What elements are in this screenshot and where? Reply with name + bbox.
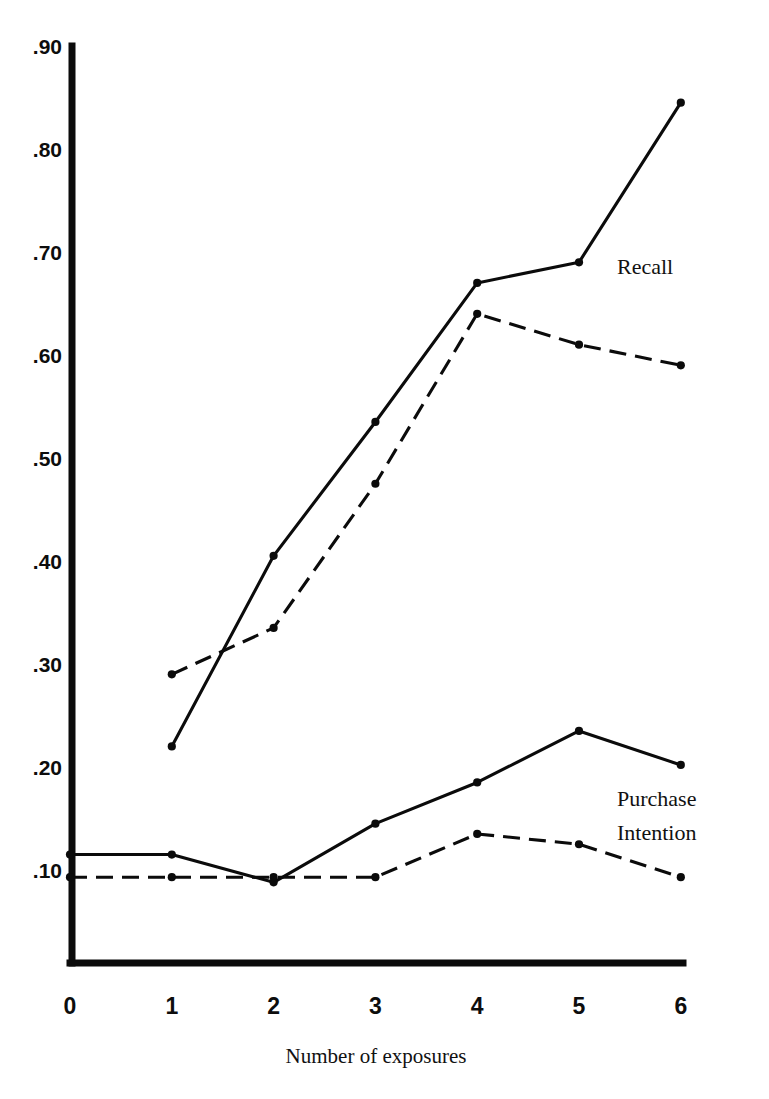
data-point-marker [575, 258, 583, 266]
data-point-marker [473, 830, 481, 838]
y-tick-label: .60 [33, 344, 62, 367]
y-tick-label: .90 [33, 35, 62, 58]
data-point-marker [270, 873, 278, 881]
series-label-purchase-intention-line2: Intention [617, 820, 696, 845]
x-tick-label: 4 [471, 993, 484, 1019]
y-tick-label: .20 [33, 756, 62, 779]
data-point-marker [575, 840, 583, 848]
y-axis-tick-labels: .90.80.70.60.50.40.30.20.10 [33, 35, 62, 882]
data-point-marker [575, 341, 583, 349]
data-point-marker [677, 361, 685, 369]
data-point-marker [473, 279, 481, 287]
data-point-marker [371, 820, 379, 828]
chart-series-layer [70, 103, 681, 883]
series-line-recall-solid [172, 103, 681, 747]
chart-figure: .90.80.70.60.50.40.30.20.10 0123456 Reca… [0, 0, 769, 1099]
top-cropped-text [180, 0, 740, 10]
x-axis-title: Number of exposures [286, 1044, 467, 1068]
y-tick-label: .50 [33, 447, 62, 470]
x-tick-label: 1 [165, 993, 178, 1019]
y-tick-label: .70 [33, 241, 62, 264]
series-label-purchase-intention-line1: Purchase [617, 786, 696, 811]
series-label-recall: Recall [617, 254, 673, 279]
data-point-marker [66, 850, 74, 858]
x-tick-label: 2 [267, 993, 280, 1019]
data-point-marker [575, 727, 583, 735]
y-tick-label: .30 [33, 653, 62, 676]
data-point-marker [371, 418, 379, 426]
data-point-marker [473, 310, 481, 318]
x-tick-label: 3 [369, 993, 382, 1019]
data-point-marker [473, 778, 481, 786]
data-point-marker [270, 552, 278, 560]
x-tick-label: 0 [64, 993, 77, 1019]
x-tick-label: 6 [674, 993, 687, 1019]
data-point-marker [677, 873, 685, 881]
data-point-marker [168, 670, 176, 678]
x-axis-tick-labels: 0123456 [64, 993, 688, 1019]
series-line-purchase-intention-solid [70, 731, 681, 882]
data-point-marker [270, 624, 278, 632]
data-point-marker [168, 873, 176, 881]
y-tick-label: .80 [33, 138, 62, 161]
data-point-marker [371, 480, 379, 488]
data-point-marker [677, 761, 685, 769]
line-chart: .90.80.70.60.50.40.30.20.10 0123456 Reca… [0, 0, 769, 1099]
x-tick-label: 5 [573, 993, 586, 1019]
data-point-marker [66, 873, 74, 881]
y-tick-label: .40 [33, 550, 62, 573]
data-point-marker [371, 873, 379, 881]
chart-markers-layer [66, 99, 685, 887]
data-point-marker [168, 850, 176, 858]
series-line-recall-dashed [172, 314, 681, 675]
data-point-marker [677, 99, 685, 107]
data-point-marker [168, 742, 176, 750]
y-tick-label: .10 [33, 859, 62, 882]
